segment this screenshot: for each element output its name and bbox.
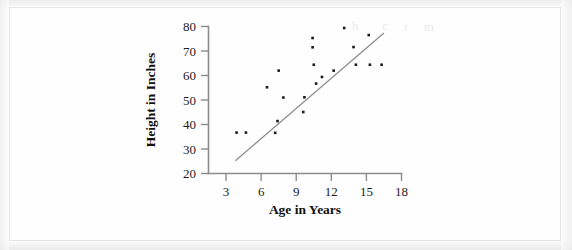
data-point: [276, 120, 279, 123]
data-point: [312, 63, 315, 66]
y-tick-label: 30: [183, 142, 196, 157]
data-point: [380, 63, 383, 66]
axes-group: [209, 27, 402, 174]
regression-trendline: [235, 33, 384, 161]
data-point: [277, 69, 280, 72]
data-points-group: [235, 27, 383, 134]
data-point: [369, 63, 372, 66]
scatter-plot-figure: h c r m 20304050607080 369121518 Age in …: [0, 0, 572, 250]
data-point: [315, 82, 318, 85]
x-tick-label: 18: [395, 184, 408, 199]
data-point: [274, 132, 277, 135]
x-axis-ticks: 369121518: [223, 173, 408, 199]
data-point: [343, 27, 346, 30]
data-point: [266, 86, 269, 89]
y-tick-label: 40: [183, 117, 196, 132]
y-tick-label: 80: [183, 19, 196, 34]
y-tick-label: 60: [183, 68, 196, 83]
y-axis-ticks: 20304050607080: [183, 19, 208, 181]
data-point: [282, 96, 285, 99]
svg-text:c: c: [382, 18, 388, 33]
data-point: [245, 131, 248, 134]
y-tick-label: 50: [183, 93, 196, 108]
svg-text:r: r: [404, 19, 409, 34]
x-tick-label: 9: [293, 184, 300, 199]
data-point: [303, 96, 306, 99]
data-point: [311, 46, 314, 49]
svg-text:h: h: [352, 18, 359, 33]
data-point: [302, 111, 305, 114]
x-tick-label: 6: [258, 184, 265, 199]
data-point: [321, 76, 324, 79]
x-tick-label: 12: [325, 184, 338, 199]
data-point: [352, 46, 355, 49]
chart-canvas: h c r m 20304050607080 369121518 Age in …: [0, 0, 572, 250]
x-tick-label: 15: [360, 184, 373, 199]
scan-ghost-marks: h c r m: [352, 18, 434, 34]
y-tick-label: 20: [183, 166, 196, 181]
scanned-page: h c r m 20304050607080 369121518 Age in …: [0, 0, 572, 250]
x-axis-title: Age in Years: [269, 202, 341, 217]
y-tick-label: 70: [183, 44, 196, 59]
y-axis-title: Height in Inches: [143, 53, 158, 148]
trendline-group: [235, 33, 384, 161]
svg-text:m: m: [424, 19, 434, 34]
data-point: [332, 69, 335, 72]
data-point: [367, 34, 370, 37]
x-tick-label: 3: [223, 184, 230, 199]
data-point: [235, 131, 238, 134]
data-point: [355, 63, 358, 66]
data-point: [311, 37, 314, 40]
